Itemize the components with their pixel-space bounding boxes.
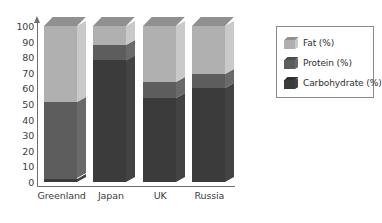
bar-segment-side-face <box>77 26 86 102</box>
bar-segment-side-face <box>126 60 135 182</box>
bar-segment-side-face <box>77 102 86 178</box>
bar-series-container <box>38 14 235 186</box>
bar-segment-side-face <box>176 82 185 98</box>
y-axis-tick-40: 40 <box>22 115 34 124</box>
y-axis-tick-60: 60 <box>22 84 34 93</box>
legend-swatch-protein <box>284 57 297 69</box>
y-axis-tick-10: 10 <box>22 162 34 171</box>
bar-segment-uk-protein[interactable] <box>143 82 176 98</box>
bar-uk[interactable] <box>143 14 176 186</box>
bar-russia[interactable] <box>192 14 225 186</box>
plot-area: 0102030405060708090100 <box>37 14 235 186</box>
bar-segment-japan-protein[interactable] <box>93 45 126 61</box>
y-axis-tick-70: 70 <box>22 68 34 77</box>
y-axis-tick-100: 100 <box>16 22 34 31</box>
bar-segment-japan-fat[interactable] <box>93 26 126 45</box>
x-axis-label-russia: Russia <box>177 190 242 201</box>
bar-segment-russia-carbohydrate[interactable] <box>192 88 225 182</box>
bar-segment-russia-protein[interactable] <box>192 74 225 88</box>
legend-swatch-carbohydrate <box>284 77 297 89</box>
y-axis-tick-20: 20 <box>22 146 34 155</box>
bar-segment-side-face <box>126 26 135 45</box>
y-axis-tick-50: 50 <box>22 100 34 109</box>
bar-segment-greenland-fat[interactable] <box>44 26 77 102</box>
bar-segment-side-face <box>225 74 234 88</box>
chart-legend: Fat (%)Protein (%)Carbohydrate (%) <box>276 26 374 98</box>
bar-segment-side-face <box>126 45 135 61</box>
y-axis-tick-0: 0 <box>28 178 34 187</box>
bar-segment-greenland-carbohydrate[interactable] <box>44 179 77 182</box>
bar-segment-uk-carbohydrate[interactable] <box>143 98 176 182</box>
legend-item-carbohydrate[interactable]: Carbohydrate (%) <box>284 74 382 92</box>
bar-segment-side-face <box>176 98 185 182</box>
bar-segment-greenland-protein[interactable] <box>44 102 77 178</box>
legend-swatch-fat <box>284 37 297 49</box>
x-axis-category-labels: GreenlandJapanUKRussia <box>37 190 241 206</box>
x-axis-line <box>37 186 235 187</box>
bar-segment-japan-carbohydrate[interactable] <box>93 60 126 182</box>
bar-segment-side-face <box>77 179 86 182</box>
bar-japan[interactable] <box>93 14 126 186</box>
y-axis-tick-90: 90 <box>22 37 34 46</box>
y-axis-tick-80: 80 <box>22 53 34 62</box>
legend-item-fat[interactable]: Fat (%) <box>284 34 334 52</box>
bar-greenland[interactable] <box>44 14 77 186</box>
legend-label-carbohydrate: Carbohydrate (%) <box>303 78 382 88</box>
legend-item-protein[interactable]: Protein (%) <box>284 54 352 72</box>
y-axis-tick-30: 30 <box>22 131 34 140</box>
bar-segment-uk-fat[interactable] <box>143 26 176 82</box>
bar-segment-russia-fat[interactable] <box>192 26 225 74</box>
bar-segment-side-face <box>225 88 234 182</box>
bar-segment-side-face <box>225 26 234 74</box>
y-axis-tick-labels: 0102030405060708090100 <box>4 14 34 186</box>
legend-label-fat: Fat (%) <box>303 38 334 48</box>
bar-segment-side-face <box>176 26 185 82</box>
legend-label-protein: Protein (%) <box>303 58 352 68</box>
